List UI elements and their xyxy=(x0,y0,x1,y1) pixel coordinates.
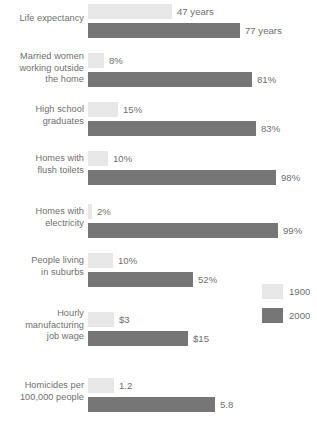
bar-fill-1900 xyxy=(88,4,172,19)
bar-value-label: $15 xyxy=(193,332,209,345)
row-label: Homes withelectricity xyxy=(0,206,84,229)
bar-fill-2000 xyxy=(88,23,240,38)
bar-value-label: 81% xyxy=(257,73,276,86)
bar-fill-1900 xyxy=(88,253,113,268)
row-label-line: flush toilets xyxy=(0,165,84,177)
bar-value-label: 99% xyxy=(283,224,302,237)
legend-label: 1900 xyxy=(289,285,310,298)
bar-value-label: 2% xyxy=(97,205,111,218)
bar-value-label: 10% xyxy=(113,152,132,165)
legend-swatch xyxy=(262,308,283,323)
bar-fill-1900 xyxy=(88,312,114,327)
row-label-line: in suburbs xyxy=(0,267,84,279)
row-label-line: working outside xyxy=(0,63,84,75)
bar-value-label: 10% xyxy=(118,254,137,267)
bar-fill-1900 xyxy=(88,102,118,117)
row-label: Hourlymanufacturingjob wage xyxy=(0,308,84,343)
bar-value-label: 52% xyxy=(198,273,217,286)
row-label-line: electricity xyxy=(0,218,84,230)
bar-fill-1900 xyxy=(88,53,104,68)
row-label-line: Homes with xyxy=(0,206,84,218)
row-label-line: the home xyxy=(0,74,84,86)
bar-value-label: 98% xyxy=(281,171,300,184)
row-label-line: People living xyxy=(0,255,84,267)
row-label: Married womenworking outsidethe home xyxy=(0,51,84,86)
bar-value-label: 5.8 xyxy=(220,398,233,411)
bar-fill-2000 xyxy=(88,397,215,412)
row-label-line: graduates xyxy=(0,116,84,128)
row-label-line: 100,000 people xyxy=(0,392,84,404)
bar-fill-2000 xyxy=(88,170,276,185)
row-label: Life expectancy xyxy=(0,13,84,25)
comparison-bar-chart: Life expectancy47 years77 yearsMarried w… xyxy=(0,0,317,426)
row-label: Homes withflush toilets xyxy=(0,153,84,176)
row-label-line: job wage xyxy=(0,331,84,343)
legend-swatch xyxy=(262,284,283,299)
row-label-line: manufacturing xyxy=(0,320,84,332)
bar-fill-2000 xyxy=(88,121,256,136)
bar-fill-2000 xyxy=(88,223,278,238)
bar-value-label: 8% xyxy=(109,54,123,67)
bar-value-label: 77 years xyxy=(245,24,282,37)
bar-value-label: 15% xyxy=(123,103,142,116)
bar-fill-1900 xyxy=(88,204,92,219)
bar-fill-2000 xyxy=(88,331,188,346)
row-label-line: Hourly xyxy=(0,308,84,320)
bar-value-label: $3 xyxy=(119,313,130,326)
row-label: People livingin suburbs xyxy=(0,255,84,278)
row-label-line: High school xyxy=(0,104,84,116)
row-label-line: Life expectancy xyxy=(0,13,84,25)
bar-fill-2000 xyxy=(88,72,252,87)
row-label-line: Married women xyxy=(0,51,84,63)
row-label-line: Homes with xyxy=(0,153,84,165)
bar-value-label: 1.2 xyxy=(119,379,132,392)
bar-fill-1900 xyxy=(88,151,108,166)
bar-fill-1900 xyxy=(88,378,114,393)
bar-fill-2000 xyxy=(88,272,193,287)
bar-value-label: 47 years xyxy=(177,5,214,18)
legend-label: 2000 xyxy=(289,309,310,322)
row-label: High schoolgraduates xyxy=(0,104,84,127)
row-label-line: Homicides per xyxy=(0,380,84,392)
bar-value-label: 83% xyxy=(261,122,280,135)
row-label: Homicides per100,000 people xyxy=(0,380,84,403)
